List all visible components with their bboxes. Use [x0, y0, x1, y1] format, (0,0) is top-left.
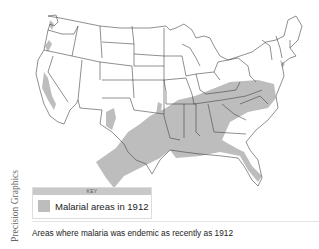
figure-caption: Areas where malaria was endemic as recen… [32, 228, 233, 238]
us-map [0, 0, 319, 200]
key-item-label: Malarial areas in 1912 [55, 201, 148, 212]
malarial-area-swatch [38, 200, 50, 212]
map-key: KEY Malarial areas in 1912 [32, 187, 152, 219]
shaded-malarial-areas [42, 20, 285, 188]
divider [32, 221, 319, 222]
key-header: KEY [33, 188, 151, 195]
key-item: Malarial areas in 1912 [33, 195, 151, 212]
credit-text: Precision Graphics [10, 170, 20, 242]
